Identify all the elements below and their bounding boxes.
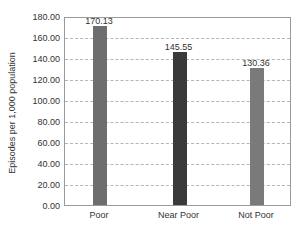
y-tick-label: 80.00 [4,117,60,127]
bar-poor [93,26,107,205]
x-category-label: Poor [59,210,139,220]
y-tick-label: 0.00 [4,201,60,211]
y-tick-label: 100.00 [4,96,60,106]
y-tick-label: 20.00 [4,180,60,190]
bar-chart: Episodes per 1,000 population 0.0020.004… [0,0,304,231]
y-tick-label: 120.00 [4,75,60,85]
bar-value-label: 145.55 [154,42,204,52]
bar-value-label: 130.36 [231,58,281,68]
y-tick-label: 60.00 [4,138,60,148]
bar-value-label: 170.13 [74,16,124,26]
y-tick-label: 180.00 [4,12,60,22]
y-tick-label: 160.00 [4,33,60,43]
y-tick-label: 40.00 [4,159,60,169]
bar-not-poor [250,68,264,205]
y-tick-label: 140.00 [4,54,60,64]
x-category-label: Not Poor [216,210,296,220]
x-category-label: Near Poor [139,210,219,220]
bar-near-poor [173,52,187,205]
